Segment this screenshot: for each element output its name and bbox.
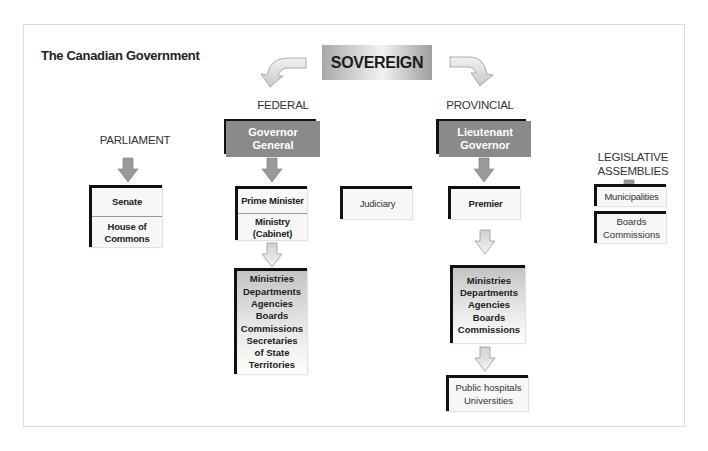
lieutenant-governor-box: Lieutenant Governor: [439, 121, 531, 157]
governor-general-box: Governor General: [226, 121, 320, 157]
curved-arrow-right-icon: [448, 55, 498, 89]
municipalities-box: Municipalities: [594, 184, 666, 206]
judiciary-box: Judiciary: [340, 186, 412, 219]
diagram-title: The Canadian Government: [41, 48, 200, 63]
provincial-heading: PROVINCIAL: [440, 98, 520, 112]
provincial-administration-box: Ministries Departments Agencies Boards C…: [450, 265, 525, 343]
parliament-box: Senate House of Commons: [89, 185, 162, 247]
sovereign-box: SOVEREIGN: [322, 45, 432, 80]
boards-commissions-box: Boards Commissions: [594, 211, 666, 243]
ministry-cabinet-cell: Ministry (Cabinet): [238, 213, 307, 241]
federal-administration-box: Ministries Departments Agencies Boards C…: [234, 268, 307, 374]
provincial-administration-list: Ministries Departments Agencies Boards C…: [453, 268, 525, 343]
premier-box: Premier: [448, 186, 520, 219]
sovereign-label: SOVEREIGN: [331, 54, 423, 72]
parliament-heading: PARLIAMENT: [90, 133, 180, 147]
senate-cell: Senate: [92, 188, 162, 216]
down-arrow-federal-icon: [262, 158, 282, 182]
institutions-box: Public hospitals Universities: [446, 375, 528, 411]
down-arrow-provincial-admin-icon: [475, 347, 495, 371]
curved-arrow-left-icon: [258, 52, 308, 88]
institutions-list: Public hospitals Universities: [449, 378, 528, 411]
down-arrow-premier-icon: [475, 230, 495, 254]
federal-heading: FEDERAL: [248, 98, 318, 112]
down-arrow-parliament-icon: [118, 158, 138, 182]
house-of-commons-cell: House of Commons: [92, 216, 162, 248]
prime-minister-cell: Prime Minister: [238, 189, 307, 213]
down-arrow-ministry-icon: [262, 243, 282, 267]
federal-administration-list: Ministries Departments Agencies Boards C…: [237, 271, 307, 374]
down-arrow-provincial-icon: [474, 158, 494, 182]
federal-executive-box: Prime Minister Ministry (Cabinet): [235, 186, 307, 240]
